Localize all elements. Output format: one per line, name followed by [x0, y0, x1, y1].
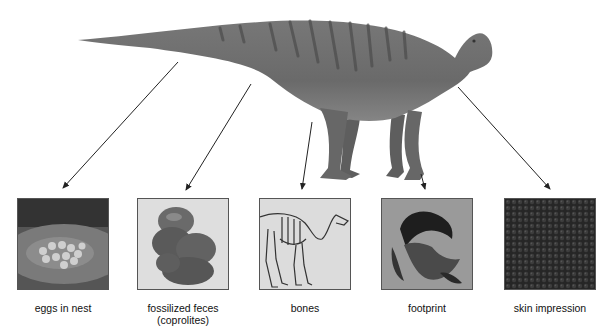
- dinosaur-and-arrows: [0, 0, 611, 200]
- bones-image: [259, 198, 351, 290]
- arrow-to-skin: [458, 87, 550, 189]
- fossilized-feces-image: [137, 198, 229, 290]
- fossil-evidence-diagram: eggs in nest fossilized feces (coprolite…: [0, 0, 611, 328]
- arrow-to-bones: [302, 122, 312, 189]
- eggs-in-nest-image: [17, 198, 109, 290]
- arrow-to-footprint: [421, 174, 425, 189]
- dinosaur-illustration: [78, 21, 492, 180]
- arrow-to-eggs: [63, 62, 178, 188]
- arrow-to-feces: [186, 84, 251, 190]
- skin-impression-image: [504, 198, 596, 290]
- footprint-image: [381, 198, 473, 290]
- label-fossilized-feces: fossilized feces (coprolites): [118, 302, 248, 326]
- label-skin-impression: skin impression: [485, 302, 611, 314]
- label-eggs-in-nest: eggs in nest: [0, 302, 128, 314]
- label-footprint: footprint: [362, 302, 492, 314]
- label-bones: bones: [240, 302, 370, 314]
